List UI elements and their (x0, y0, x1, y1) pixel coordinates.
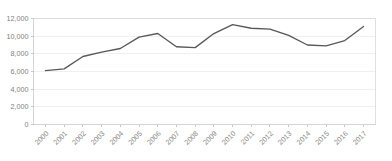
y-tick-label: 10,000 (7, 32, 29, 41)
y-tick-label: 6,000 (11, 67, 29, 76)
y-tick-label: 2,000 (11, 102, 29, 111)
y-tick-label: 8,000 (11, 49, 29, 58)
chart-canvas: 02,0004,0006,0008,00010,00012,000 200020… (0, 0, 392, 161)
y-tick-label: 0 (25, 120, 29, 129)
line-chart: 02,0004,0006,0008,00010,00012,000 200020… (0, 0, 392, 161)
y-tick-label: 4,000 (11, 85, 29, 94)
y-tick-label: 12,000 (7, 14, 29, 23)
